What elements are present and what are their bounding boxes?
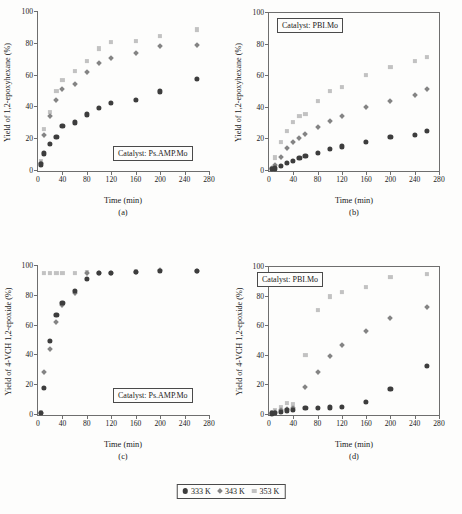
data-point [38,410,43,415]
y-axis-tick [265,414,269,415]
legend-label: 333 K [191,487,211,496]
data-point [364,400,369,405]
panel-caption: (b) [268,208,440,217]
data-point [60,271,64,275]
data-point [327,354,333,360]
data-point [302,131,308,137]
data-point [339,113,345,119]
data-point [339,144,344,149]
x-axis-tick-label: 240 [179,176,190,184]
data-point [53,97,59,103]
data-point [85,59,89,63]
data-point [279,409,284,414]
data-point [48,271,52,275]
x-axis-tick-label: 240 [409,420,420,428]
data-point [424,364,429,369]
data-point [72,81,78,87]
data-point [60,78,64,82]
data-point [54,134,59,139]
data-point [73,271,77,275]
data-point [291,407,296,412]
y-axis-tick [265,75,269,76]
x-axis-tick-label: 40 [289,176,297,184]
x-axis-tick-label: 40 [59,176,67,184]
y-axis-tick [265,355,269,356]
y-axis-tick [265,296,269,297]
y-axis-tick-label: 40 [25,104,33,112]
data-point [97,46,101,50]
y-axis-tick [34,75,38,76]
y-axis-tick [34,170,38,171]
data-point [315,369,321,375]
data-point [47,346,53,352]
y-axis-tick-label: 40 [256,104,264,112]
data-point [340,85,344,89]
y-axis-tick-label: 0 [260,411,264,419]
data-point [54,271,58,275]
y-axis-tick [265,266,269,267]
y-axis-tick-label: 80 [256,293,264,301]
legend-item: 343 K [218,487,245,496]
data-point [133,269,138,274]
data-point [109,101,114,106]
data-point [272,410,277,415]
data-point [364,73,368,77]
data-point [327,118,333,124]
y-axis-tick [34,384,38,385]
data-point [194,76,199,81]
data-point [38,162,43,167]
data-point [327,405,332,410]
x-axis-tick-label: 200 [154,420,165,428]
data-point [364,285,368,289]
data-point [273,155,277,159]
x-axis-tick-label: 40 [289,420,297,428]
x-axis-tick-label: 240 [409,176,420,184]
data-point [412,92,418,98]
data-point [302,385,308,391]
data-point [109,40,113,44]
y-axis-tick [34,265,38,266]
data-point [157,43,163,49]
data-point [315,99,319,103]
y-axis-tick-label: 60 [25,72,33,80]
data-point [328,295,332,299]
data-point [285,161,290,166]
data-point [194,42,200,48]
data-point [285,408,290,413]
x-axis-tick-label: 120 [106,420,117,428]
y-axis-tick [265,12,269,13]
x-axis-tick-label: 0 [36,176,40,184]
legend-marker-circle-icon [183,488,188,493]
x-axis-tick-label: 80 [83,420,91,428]
y-axis-tick-label: 20 [25,135,33,143]
legend-item: 353 K [252,487,279,496]
x-axis-tick-label: 0 [267,420,271,428]
data-point [340,290,344,294]
y-axis-tick-label: 0 [29,411,33,419]
y-axis-tick [265,170,269,171]
x-axis-tick-label: 80 [314,420,322,428]
figure-canvas: Yield of 1,2-epoxyhexane (%) 02040608010… [0,0,462,514]
x-axis-tick-label: 160 [130,176,141,184]
data-point [425,55,429,59]
data-point [387,315,393,321]
data-point [272,166,277,171]
y-axis-tick [265,107,269,108]
y-axis-tick-label: 0 [260,167,264,175]
chart-legend: 333 K343 K353 K [177,484,286,499]
data-point [424,304,430,310]
data-point [285,401,289,405]
legend-marker-diamond-icon [217,488,223,494]
data-point [278,154,284,160]
x-axis-tick-label: 200 [154,176,165,184]
chart-panel-c: Yield of 4-VCH 1,2-epoxide (%) 020406080… [0,258,231,458]
panel-caption: (a) [37,208,209,217]
x-axis-tick-label: 160 [360,176,371,184]
data-point [424,87,430,93]
catalyst-annotation: Catalyst: PBI.Mo [277,18,343,33]
y-axis-tick [34,414,38,415]
x-axis-tick-label: 160 [130,420,141,428]
y-axis-tick-label: 60 [256,322,264,330]
x-axis-tick-label: 80 [314,176,322,184]
y-axis-tick [34,325,38,326]
